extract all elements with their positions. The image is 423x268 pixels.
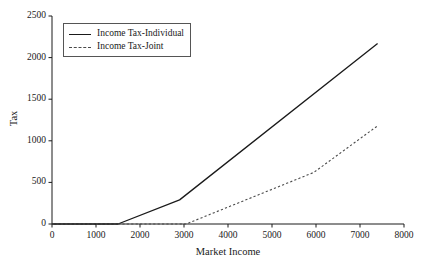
x-tick-label: 2000	[131, 231, 150, 241]
y-tick-label: 0	[41, 219, 46, 229]
x-tick-label: 4000	[219, 231, 238, 241]
x-tick-label: 0	[50, 231, 55, 241]
y-tick-label: 2500	[27, 11, 46, 21]
y-tick-label: 1500	[27, 94, 46, 104]
legend: Income Tax-Individual Income Tax-Joint	[63, 23, 191, 57]
x-tick-label: 6000	[307, 231, 326, 241]
legend-item: Income Tax-Joint	[69, 40, 184, 53]
y-tick-label: 500	[32, 178, 46, 188]
income-tax-line-chart: 05001000150020002500 0100020003000400050…	[0, 0, 423, 268]
x-tick-label: 3000	[175, 231, 194, 241]
legend-label: Income Tax-Individual	[97, 29, 184, 39]
legend-line-swatch-dashed	[69, 42, 91, 52]
y-axis-ticks	[49, 16, 53, 224]
legend-line-swatch-solid	[69, 29, 91, 39]
x-tick-label: 5000	[263, 231, 282, 241]
x-tick-label: 8000	[395, 231, 414, 241]
series-line	[52, 43, 378, 224]
data-series-layer	[52, 43, 378, 224]
x-axis-title: Market Income	[196, 246, 260, 257]
series-line	[52, 126, 378, 224]
legend-item: Income Tax-Individual	[69, 27, 184, 40]
legend-label: Income Tax-Joint	[97, 42, 163, 52]
y-tick-label: 2000	[27, 53, 46, 63]
x-tick-label: 7000	[351, 231, 370, 241]
y-axis-title: Tax	[8, 111, 19, 127]
y-tick-label: 1000	[27, 136, 46, 146]
x-tick-label: 1000	[87, 231, 106, 241]
